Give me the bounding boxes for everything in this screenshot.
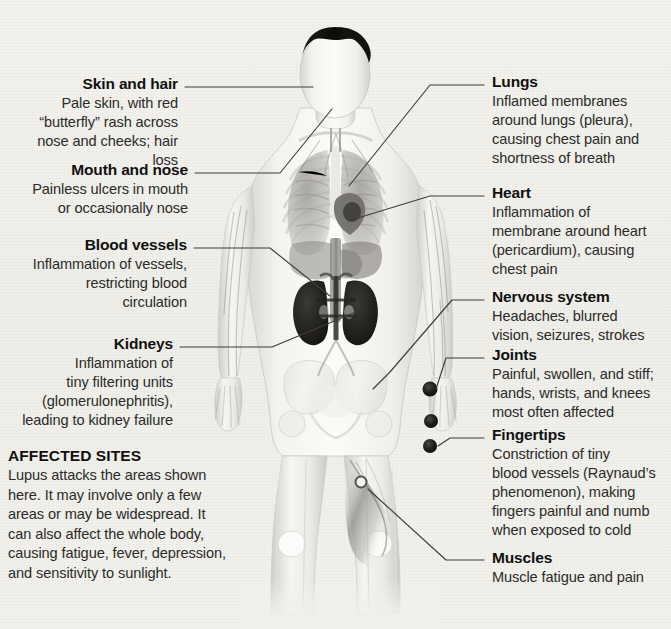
- callout-title-blood-vessels: Blood vessels: [8, 235, 187, 255]
- callout-body-heart: Inflammation of membrane around heart (p…: [492, 203, 667, 279]
- callout-title-joints: Joints: [492, 345, 670, 365]
- affected-sites-block: AFFECTED SITES Lupus attacks the areas s…: [8, 447, 252, 583]
- callout-line: Inflammation of: [492, 203, 667, 222]
- callout-line: Inflammation of: [2, 354, 173, 373]
- callout-line: causing chest pain and: [492, 130, 667, 149]
- callout-line: shortness of breath: [492, 149, 667, 168]
- callout-body-blood-vessels: Inflammation of vessels, restricting blo…: [8, 255, 187, 312]
- callout-line: Painful, swollen, and stiff;: [492, 365, 670, 384]
- callout-title-skin-and-hair: Skin and hair: [8, 74, 178, 94]
- callout-line: circulation: [8, 293, 187, 312]
- callout-nervous-system: Nervous system Headaches, blurred vision…: [492, 287, 667, 345]
- callout-body-skin-and-hair: Pale skin, with red “butterfly” rash acr…: [8, 94, 178, 170]
- callout-line: “butterfly” rash across: [8, 113, 178, 132]
- callout-title-muscles: Muscles: [492, 548, 670, 568]
- callout-joints: Joints Painful, swollen, and stiff; hand…: [492, 345, 670, 422]
- affected-sites-line: Lupus attacks the areas shown: [8, 466, 252, 486]
- callout-line: or occasionally nose: [8, 199, 188, 218]
- callout-blood-vessels: Blood vessels Inflammation of vessels, r…: [8, 235, 187, 312]
- callout-mouth-and-nose: Mouth and nose Painless ulcers in mouth …: [8, 160, 188, 218]
- callout-line: Painless ulcers in mouth: [8, 180, 188, 199]
- callout-line: blood vessels (Raynaud’s: [492, 464, 670, 483]
- callout-line: restricting blood: [8, 274, 187, 293]
- callout-title-lungs: Lungs: [492, 72, 667, 92]
- callout-lungs: Lungs Inflamed membranes around lungs (p…: [492, 72, 667, 168]
- callout-line: Pale skin, with red: [8, 94, 178, 113]
- callout-body-fingertips: Constriction of tiny blood vessels (Rayn…: [492, 445, 670, 540]
- affected-sites-body: Lupus attacks the areas shown here. It m…: [8, 466, 252, 583]
- affected-sites-line: here. It may involve only a few: [8, 486, 252, 506]
- callout-line: Constriction of tiny: [492, 445, 670, 464]
- callout-line: tiny filtering units: [2, 373, 173, 392]
- callout-line: Inflamed membranes: [492, 92, 667, 111]
- callout-line: vision, seizures, strokes: [492, 326, 667, 345]
- callout-line: most often affected: [492, 403, 670, 422]
- callout-line: hands, wrists, and knees: [492, 384, 670, 403]
- callout-body-lungs: Inflamed membranes around lungs (pleura)…: [492, 92, 667, 168]
- callout-line: (glomerulonephritis),: [2, 392, 173, 411]
- callout-body-mouth-and-nose: Painless ulcers in mouth or occasionally…: [8, 180, 188, 218]
- callout-fingertips: Fingertips Constriction of tiny blood ve…: [492, 425, 670, 540]
- callout-body-kidneys: Inflammation of tiny filtering units (gl…: [2, 354, 173, 430]
- fingertip-marker-lower: [423, 439, 437, 453]
- callout-line: Inflammation of vessels,: [8, 255, 187, 274]
- callout-line: membrane around heart: [492, 222, 667, 241]
- callout-title-kidneys: Kidneys: [2, 334, 173, 354]
- callout-body-joints: Painful, swollen, and stiff; hands, wris…: [492, 365, 670, 422]
- callout-skin-and-hair: Skin and hair Pale skin, with red “butte…: [8, 74, 178, 170]
- callout-body-muscles: Muscle fatigue and pain: [492, 568, 670, 587]
- callout-line: Muscle fatigue and pain: [492, 568, 670, 587]
- callout-title-mouth-and-nose: Mouth and nose: [8, 160, 188, 180]
- callout-line: phenomenon), making: [492, 483, 670, 502]
- callout-line: fingers painful and numb: [492, 502, 670, 521]
- callout-title-heart: Heart: [492, 183, 667, 203]
- callout-heart: Heart Inflammation of membrane around he…: [492, 183, 667, 279]
- callout-body-nervous-system: Headaches, blurred vision, seizures, str…: [492, 307, 667, 345]
- muscle-marker: [356, 477, 367, 488]
- callout-kidneys: Kidneys Inflammation of tiny filtering u…: [2, 334, 173, 430]
- fingertip-marker-upper: [424, 414, 438, 428]
- affected-sites-line: areas or may be widespread. It: [8, 505, 252, 525]
- callout-line: when exposed to cold: [492, 521, 670, 540]
- callout-title-nervous-system: Nervous system: [492, 287, 667, 307]
- callout-line: around lungs (pleura),: [492, 111, 667, 130]
- callout-muscles: Muscles Muscle fatigue and pain: [492, 548, 670, 587]
- lupus-diagram-page: Skin and hair Pale skin, with red “butte…: [0, 0, 671, 629]
- affected-sites-line: and sensitivity to sunlight.: [8, 564, 252, 584]
- callout-line: leading to kidney failure: [2, 411, 173, 430]
- callout-title-fingertips: Fingertips: [492, 425, 670, 445]
- affected-sites-title: AFFECTED SITES: [8, 447, 252, 465]
- callout-line: (pericardium), causing: [492, 241, 667, 260]
- callout-line: chest pain: [492, 260, 667, 279]
- callout-line: Headaches, blurred: [492, 307, 667, 326]
- affected-sites-line: can also affect the whole body,: [8, 525, 252, 545]
- affected-sites-line: causing fatigue, fever, depression,: [8, 544, 252, 564]
- wrist-joint-marker: [423, 382, 438, 397]
